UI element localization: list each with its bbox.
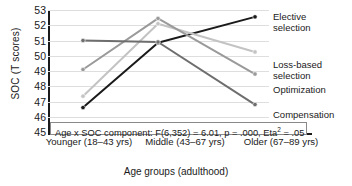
legend-label: selection (273, 23, 311, 34)
legend-item: Electiveselection (273, 12, 311, 33)
legend-label: Loss-based (273, 60, 322, 71)
legend-item: Compensation (273, 110, 334, 121)
legend-item: Loss-basedselection (273, 60, 322, 81)
y-tick-label: 46 (20, 112, 46, 122)
data-point (253, 15, 257, 19)
series-lines (48, 10, 269, 132)
legend-label: Optimization (273, 85, 326, 96)
data-point (156, 40, 160, 44)
y-axis-title: SOC (T scores) (10, 18, 21, 110)
data-point (156, 22, 160, 26)
chart-root: SOC (T scores) 454647484950515253 Electi… (0, 0, 352, 186)
data-point (81, 94, 85, 98)
data-point (156, 16, 160, 20)
x-axis-title: Age groups (adulthood) (0, 166, 352, 177)
x-tick-label: Younger (18–43 yrs) (40, 136, 138, 148)
data-point (253, 102, 257, 106)
x-tick-label: Middle (43–67 yrs) (138, 136, 232, 148)
y-tick-label: 49 (20, 66, 46, 76)
data-point (253, 72, 257, 76)
annotation-box: Age x SOC component: F(6,352) = 6.01, p … (50, 122, 307, 135)
y-tick-label: 53 (20, 5, 46, 15)
y-tick-label: 50 (20, 51, 46, 61)
data-point (81, 105, 85, 109)
data-point (81, 67, 85, 71)
series-line (83, 17, 255, 108)
legend-label: selection (273, 71, 322, 82)
y-tick-label: 47 (20, 97, 46, 107)
x-tick-label: Older (67–89 yrs) (233, 136, 329, 148)
y-tick-label: 52 (20, 20, 46, 30)
data-point (253, 50, 257, 54)
legend-item: Optimization (273, 85, 326, 96)
legend-label: Compensation (273, 110, 334, 121)
data-point (81, 38, 85, 42)
y-tick-label: 48 (20, 81, 46, 91)
legend-label: Elective (273, 12, 311, 23)
y-tick-label: 51 (20, 36, 46, 46)
